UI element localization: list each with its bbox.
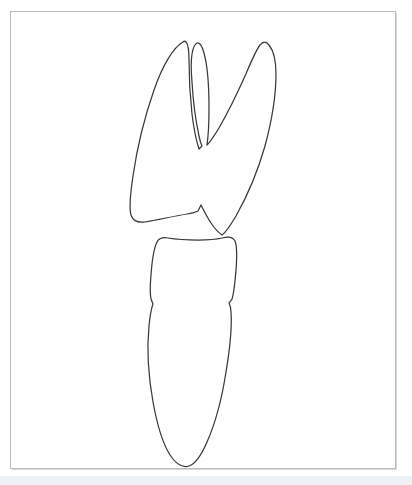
screenshot-page: Tooth outline Line drawing of a tooth se…: [0, 0, 412, 485]
figure-frame: Tooth outline: [10, 11, 396, 469]
root-outline-path: [148, 237, 237, 467]
page-edge-band: [0, 476, 412, 485]
crown-outline-path: [130, 41, 276, 235]
tooth-line-drawing: Tooth outline: [11, 12, 397, 470]
